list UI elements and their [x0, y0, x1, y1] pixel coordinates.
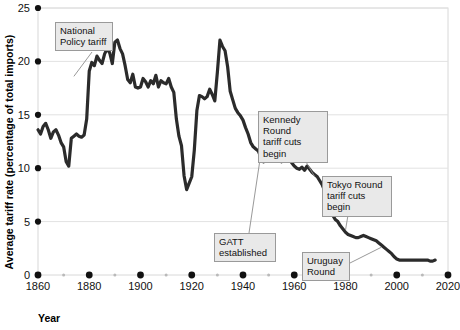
svg-text:20: 20 [18, 55, 30, 67]
svg-text:1960: 1960 [282, 280, 306, 292]
annotation-national-policy-tariff: National Policy tariff [55, 22, 113, 51]
x-axis-title: Year [38, 312, 60, 324]
svg-text:10: 10 [18, 162, 30, 174]
annotation-uruguay-round: Uruguay Round [302, 252, 350, 281]
svg-text:1940: 1940 [231, 280, 255, 292]
svg-text:25: 25 [18, 2, 30, 14]
y-axis-title: Average tariff rate (percentage of total… [3, 35, 15, 270]
svg-text:1980: 1980 [333, 280, 357, 292]
annotation-gatt-established: GATT established [214, 233, 276, 262]
svg-text:1880: 1880 [77, 280, 101, 292]
annotation-kennedy-round: Kennedy Round tariff cuts begin [258, 111, 328, 163]
svg-text:2000: 2000 [385, 280, 409, 292]
svg-text:1920: 1920 [180, 280, 204, 292]
tariff-rate-chart: 0510152025 18601880190019201940196019802… [0, 0, 460, 330]
svg-text:1900: 1900 [128, 280, 152, 292]
svg-text:2020: 2020 [436, 280, 460, 292]
svg-text:15: 15 [18, 109, 30, 121]
svg-text:5: 5 [24, 216, 30, 228]
svg-text:1860: 1860 [26, 280, 50, 292]
x-axis-ticks: 186018801900192019401960198020002020 [26, 272, 460, 292]
annotation-tokyo-round: Tokyo Round tariff cuts begin [322, 176, 392, 217]
